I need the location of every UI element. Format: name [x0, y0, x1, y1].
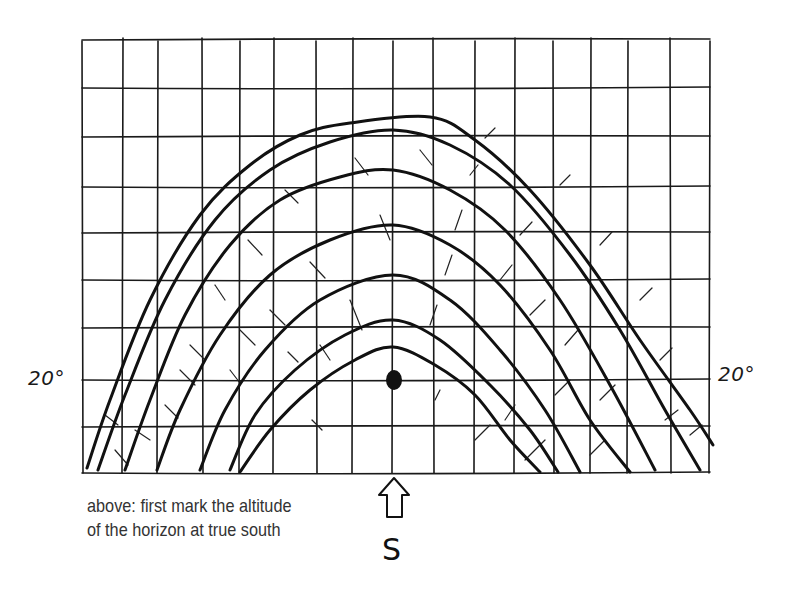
sun-path-curve	[98, 130, 700, 470]
grid-vertical-line	[474, 41, 475, 473]
grid-vertical-line	[202, 38, 203, 473]
grid-horizontal-line	[82, 186, 710, 188]
hour-tick	[310, 262, 325, 278]
grid-horizontal-line	[82, 136, 710, 137]
grid-horizontal-line	[82, 426, 710, 427]
hour-tick	[240, 330, 255, 345]
hour-tick	[475, 425, 490, 440]
grid-vertical-line	[670, 38, 671, 473]
right-altitude-label: 20°	[718, 362, 755, 386]
caption-line-1: above: first mark the altitude	[87, 494, 292, 518]
hour-tick	[565, 330, 578, 345]
grid-vertical-line	[709, 41, 710, 473]
grid-vertical-line	[239, 41, 240, 473]
grid-vertical-line	[392, 41, 393, 473]
hour-tick	[435, 390, 440, 400]
grid-vertical-line	[157, 41, 158, 473]
grid-vertical-line	[82, 41, 83, 473]
grid-horizontal-line	[82, 327, 710, 328]
grid-horizontal-line	[82, 472, 710, 474]
grid-vertical-line	[273, 38, 274, 473]
grid-vertical-line	[627, 41, 628, 473]
sun-path-curve	[230, 320, 558, 472]
grid-vertical-line	[514, 38, 515, 473]
hour-tick	[248, 240, 262, 255]
sun-path-curve	[240, 347, 540, 472]
hour-tick	[560, 175, 570, 185]
hour-tick	[520, 222, 532, 235]
hour-tick	[640, 288, 652, 300]
horizon-altitude-mark	[386, 370, 402, 390]
hour-tick	[420, 150, 432, 165]
hour-tick	[455, 210, 462, 230]
hour-tick	[525, 440, 545, 460]
grid-vertical-line	[122, 38, 123, 473]
hour-tick	[270, 310, 285, 325]
sun-path-curve	[87, 116, 713, 468]
hour-tick	[380, 215, 390, 240]
grid-vertical-line	[433, 38, 434, 473]
left-altitude-label: 20°	[28, 366, 65, 390]
hour-tick	[288, 352, 298, 362]
grid-vertical-line	[316, 41, 317, 473]
hour-tick	[600, 232, 612, 245]
hour-tick	[590, 440, 605, 455]
caption-line-2: of the horizon at true south	[87, 518, 292, 542]
grid-vertical-line	[352, 38, 353, 473]
grid-horizontal-line	[82, 87, 710, 89]
caption: above: first mark the altitude of the ho…	[87, 494, 292, 542]
hour-tick	[530, 300, 545, 315]
grid-vertical-line	[590, 38, 591, 473]
grid-vertical-line	[553, 41, 554, 473]
hour-tick	[445, 255, 452, 275]
grid	[82, 38, 710, 474]
up-arrow-icon	[379, 478, 409, 517]
hour-tick	[215, 285, 225, 300]
sun-paths	[87, 116, 713, 472]
grid-horizontal-line	[82, 39, 710, 40]
hour-tick	[485, 128, 495, 138]
south-label: S	[382, 532, 401, 567]
grid-horizontal-line	[82, 232, 710, 233]
hour-tick	[500, 265, 512, 280]
